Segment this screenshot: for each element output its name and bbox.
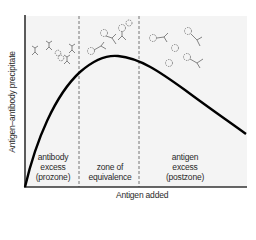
zone-line: excess bbox=[28, 162, 78, 172]
zone-line: zone of bbox=[82, 162, 138, 172]
zone-label-equivalence: zone of equivalence bbox=[82, 162, 138, 182]
zone-line: equivalence bbox=[82, 172, 138, 182]
prozone-molecules-icon bbox=[32, 41, 75, 64]
zone-line: antigen bbox=[150, 152, 220, 162]
zone-line: antibody bbox=[28, 152, 78, 162]
postzone-molecules-icon bbox=[150, 28, 204, 69]
zone-line: excess bbox=[150, 162, 220, 172]
x-axis-label: Antigen added bbox=[116, 190, 168, 200]
zone-label-postzone: antigen excess (postzone) bbox=[150, 152, 220, 182]
y-axis-label: Antigen–antibody precipitate bbox=[7, 51, 17, 153]
zone-label-prozone: antibody excess (prozone) bbox=[28, 152, 78, 182]
zone-line: (postzone) bbox=[150, 172, 220, 182]
equivalence-lattice-icon bbox=[88, 20, 133, 55]
zone-line: (prozone) bbox=[28, 172, 78, 182]
